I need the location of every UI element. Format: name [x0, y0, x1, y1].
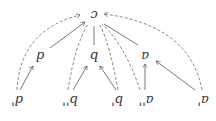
- edge-bp-c: [100, 25, 118, 90]
- node-c: c: [90, 8, 98, 23]
- node-a: a: [141, 49, 149, 64]
- edge-ap-a: [156, 61, 195, 90]
- tree-diagram: c d b a d' b'' b' a'' a': [0, 0, 216, 121]
- diagram: c d b a d' b'' b' a'' a': [0, 0, 216, 121]
- edge-app-c: [102, 24, 140, 90]
- edge-a-c: [104, 24, 138, 45]
- node-d: d: [36, 49, 44, 64]
- node-b-double-prime: b'': [62, 93, 77, 108]
- node-a-prime: a': [197, 93, 208, 108]
- edge-bpp-c: [68, 24, 88, 90]
- edge-d-c: [50, 22, 85, 48]
- edge-ap-c: [104, 14, 202, 90]
- edge-bpp-b: [73, 66, 87, 90]
- node-b: b: [90, 49, 98, 64]
- node-d-prime: d': [11, 93, 23, 108]
- node-b-prime: b': [111, 93, 123, 108]
- edge-dp-d: [20, 66, 33, 90]
- node-a-double-prime: a'': [139, 93, 154, 108]
